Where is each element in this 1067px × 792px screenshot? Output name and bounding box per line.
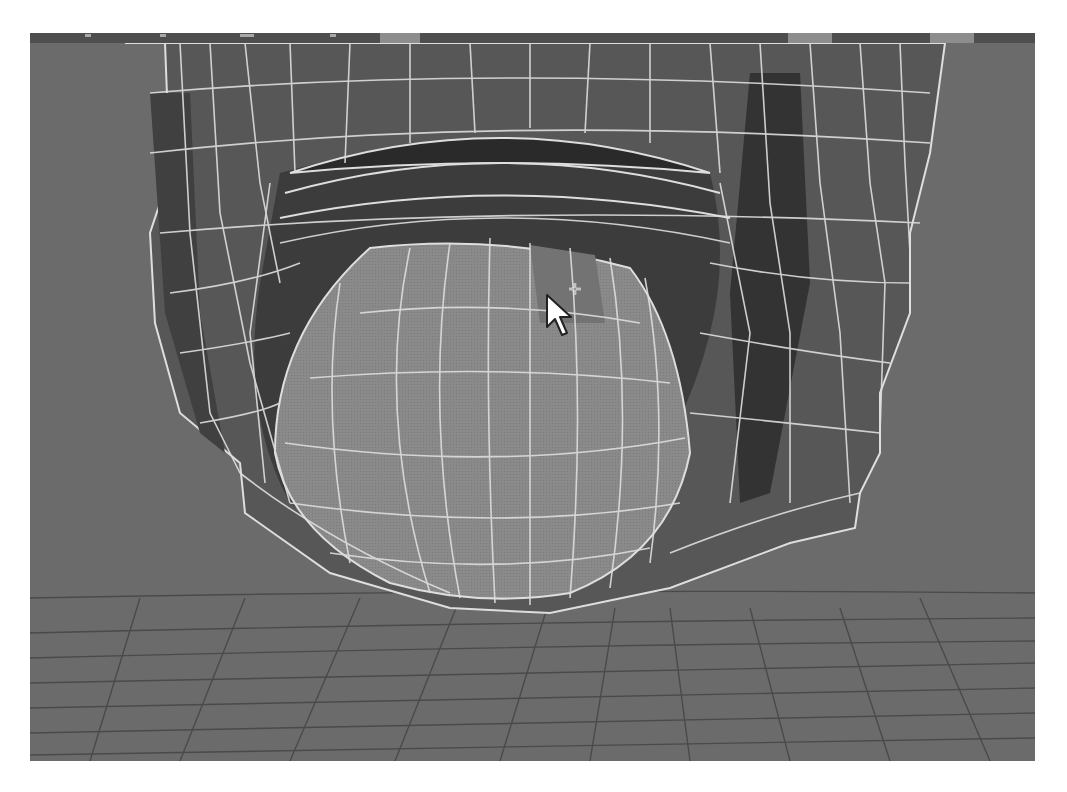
toolbar-tick bbox=[240, 34, 254, 37]
scene-canvas[interactable] bbox=[30, 33, 1035, 761]
ground-grid bbox=[30, 591, 1035, 761]
toolbar-button-1[interactable] bbox=[380, 33, 420, 43]
page-margin bbox=[0, 0, 1067, 30]
toolbar-tick bbox=[160, 34, 166, 37]
viewport-toolbar bbox=[30, 33, 1035, 43]
toolbar-button-2[interactable] bbox=[788, 33, 832, 43]
select-add-cursor-icon bbox=[545, 281, 585, 341]
toolbar-button-3[interactable] bbox=[930, 33, 974, 43]
toolbar-tick bbox=[330, 34, 336, 37]
3d-viewport[interactable] bbox=[30, 33, 1035, 761]
toolbar-tick bbox=[85, 34, 91, 37]
